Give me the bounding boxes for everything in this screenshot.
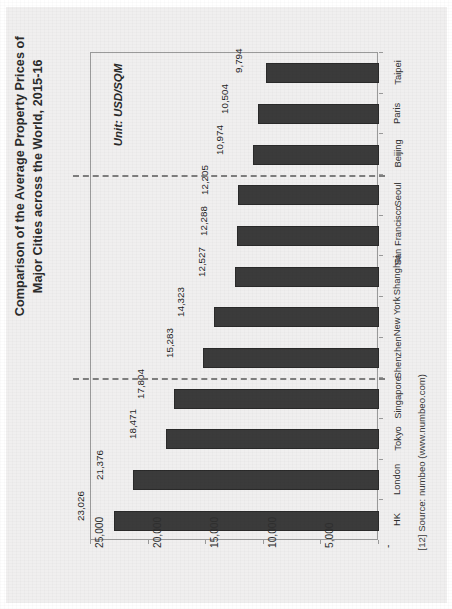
category-label-shenzhen: Shenzhen	[379, 337, 417, 378]
category-label-text: New York	[393, 297, 404, 337]
bar-row: 12,527	[91, 256, 379, 297]
category-label-singapore: Singapore	[379, 377, 417, 418]
bar	[203, 348, 379, 368]
value-tick-label: 25,000	[94, 517, 105, 548]
category-label-text: Paris	[393, 102, 404, 123]
category-label-taipei: Taipei	[379, 52, 417, 93]
bar	[214, 307, 379, 327]
category-label-text: Beijing	[393, 140, 404, 168]
page-margin-bottom	[0, 603, 452, 609]
bar-row: 14,323	[91, 297, 379, 338]
category-tick	[379, 174, 383, 175]
category-tick	[379, 459, 383, 460]
category-label-paris: Paris	[379, 93, 417, 134]
category-label-new-york: New York	[379, 296, 417, 337]
page-margin-top	[0, 0, 452, 7]
value-tick-label: 10,000	[267, 517, 278, 548]
category-tick	[379, 255, 383, 256]
category-label-san-francisco: San Francisco	[379, 215, 417, 256]
category-label-text: Taipei	[393, 60, 404, 85]
bar	[266, 63, 379, 83]
bar-value-label: 23,026	[74, 491, 85, 521]
value-tick	[263, 540, 264, 544]
category-tick	[379, 337, 383, 338]
category-tick	[379, 377, 383, 378]
bar	[235, 267, 379, 287]
category-label-beijing: Beijing	[379, 133, 417, 174]
value-tick	[320, 540, 321, 544]
category-label-hk: HK	[379, 499, 417, 540]
bar-row: 12,205	[91, 175, 379, 216]
category-tick	[379, 499, 383, 500]
bar-row: 12,288	[91, 216, 379, 257]
bar	[237, 226, 379, 246]
bar	[253, 145, 379, 165]
category-tick	[379, 215, 383, 216]
category-label-text: Tokyo	[393, 426, 404, 451]
bar	[166, 429, 379, 449]
category-label-tokyo: Tokyo	[379, 418, 417, 459]
value-tick-label: 5,000	[324, 523, 335, 549]
value-tick	[90, 540, 91, 544]
group-divider	[73, 175, 385, 177]
category-label-text: HK	[393, 513, 404, 526]
source-note: [12] Source: numbeo (www.numbeo.com)	[416, 301, 427, 551]
category-tick	[379, 418, 383, 419]
value-tick-label: 15,000	[209, 517, 220, 548]
bar	[133, 470, 379, 490]
bars-layer: 23,02621,37618,47117,80415,28314,32312,5…	[91, 53, 379, 541]
figure-page: Comparison of the Average Property Price…	[0, 0, 452, 609]
bar-value-label: 9,794	[232, 49, 243, 74]
category-label-text: Seoul	[393, 182, 404, 206]
group-divider	[73, 378, 385, 380]
value-tick	[378, 540, 379, 544]
page-margin-left	[0, 0, 6, 609]
bar	[258, 104, 379, 124]
bar-row: 17,804	[91, 378, 379, 419]
figure-title: Comparison of the Average Property Price…	[11, 31, 48, 321]
bar-row: 21,376	[91, 460, 379, 501]
category-tick	[379, 296, 383, 297]
category-label-text: Shenzhen	[393, 336, 404, 378]
value-tick	[205, 540, 206, 544]
bar-row: 23,026	[91, 500, 379, 541]
value-tick-label: -	[382, 545, 393, 548]
bar-row: 10,504	[91, 94, 379, 135]
bar	[238, 185, 379, 205]
bar-row: 18,471	[91, 419, 379, 460]
bar-row: 15,283	[91, 338, 379, 379]
category-label-seoul: Seoul	[379, 174, 417, 215]
value-tick	[148, 540, 149, 544]
category-label-text: London	[393, 463, 404, 494]
category-tick	[379, 93, 383, 94]
category-tick	[379, 52, 383, 53]
value-tick-label: 20,000	[152, 517, 163, 548]
category-axis: HKLondonTokyoSingaporeShenzhenNew YorkSh…	[379, 52, 417, 540]
plot-area: Unit: USD/SQM 23,02621,37618,47117,80415…	[90, 52, 378, 540]
page-margin-right	[447, 0, 452, 609]
category-label-text: Singapore	[393, 376, 404, 419]
category-tick	[379, 133, 383, 134]
bar-row: 10,974	[91, 134, 379, 175]
value-axis: 25,00020,00015,00010,0005,000-	[90, 540, 378, 602]
bar	[174, 389, 379, 409]
category-label-london: London	[379, 459, 417, 500]
bar-row: 9,794	[91, 53, 379, 94]
